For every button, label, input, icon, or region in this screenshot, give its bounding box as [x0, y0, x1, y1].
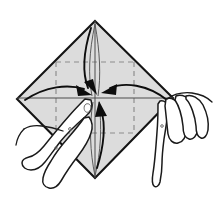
- left-wrist-edge: [16, 129, 24, 145]
- origami-diagram: Origami fold step diagram: [0, 0, 216, 202]
- origami-illustration: Origami fold step diagram: [0, 0, 216, 202]
- right-hand: [152, 93, 212, 187]
